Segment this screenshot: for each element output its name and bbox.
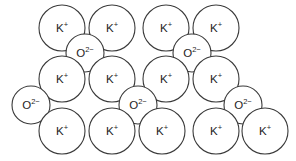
- ion-charge: +: [114, 70, 119, 79]
- ionic-lattice-diagram: K+K+K+K+O2−O2−K+K+K+K+O2−O2−O2−K+K+K+K+K…: [0, 0, 296, 161]
- ion-symbol: O: [183, 47, 192, 59]
- potassium-ion: K+: [39, 108, 85, 154]
- ion-symbol: O: [22, 99, 31, 111]
- ion-charge: +: [267, 122, 272, 131]
- ion-charge: +: [168, 70, 173, 79]
- ion-charge: 2−: [243, 96, 252, 105]
- potassium-ion: K+: [193, 108, 239, 154]
- ion-charge: +: [218, 122, 223, 131]
- potassium-ion: K+: [89, 108, 135, 154]
- ion-layer: K+K+K+K+O2−O2−K+K+K+K+O2−O2−O2−K+K+K+K+K…: [12, 5, 288, 154]
- ion-charge: 2−: [31, 96, 40, 105]
- ion-charge: +: [114, 122, 119, 131]
- ion-charge: +: [218, 70, 223, 79]
- ion-charge: +: [64, 122, 69, 131]
- ion-symbol: O: [234, 99, 243, 111]
- ion-charge: +: [218, 19, 223, 28]
- ion-charge: 2−: [192, 44, 201, 53]
- ion-charge: +: [114, 19, 119, 28]
- ion-charge: +: [64, 70, 69, 79]
- ion-charge: +: [164, 122, 169, 131]
- potassium-ion: K+: [242, 108, 288, 154]
- ion-charge: +: [64, 19, 69, 28]
- ion-charge: 2−: [138, 96, 147, 105]
- ion-charge: +: [168, 19, 173, 28]
- ion-symbol: O: [129, 99, 138, 111]
- lattice-canvas: K+K+K+K+O2−O2−K+K+K+K+O2−O2−O2−K+K+K+K+K…: [0, 0, 296, 161]
- ion-charge: 2−: [85, 44, 94, 53]
- ion-symbol: O: [76, 47, 85, 59]
- potassium-ion: K+: [139, 108, 185, 154]
